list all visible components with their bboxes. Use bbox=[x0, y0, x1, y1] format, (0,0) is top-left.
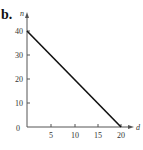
y-tick-label: 10 bbox=[15, 99, 23, 108]
x-ticks: 5 10 15 20 bbox=[49, 124, 125, 140]
y-tick-label: 30 bbox=[15, 51, 23, 60]
y-tick-label: 20 bbox=[15, 75, 23, 84]
y-ticks: 40 30 20 10 bbox=[15, 27, 30, 108]
y-axis-label: n bbox=[20, 9, 24, 18]
x-tick-label: 5 bbox=[49, 131, 53, 140]
y-axis-arrow-icon bbox=[25, 12, 29, 18]
x-tick-label: 20 bbox=[117, 131, 125, 140]
origin-label: 0 bbox=[16, 124, 20, 133]
x-axis-label: d bbox=[136, 123, 141, 132]
data-line bbox=[27, 31, 121, 127]
y-tick-label: 40 bbox=[15, 27, 23, 36]
panel-label: b. bbox=[1, 7, 12, 22]
x-tick-label: 15 bbox=[94, 131, 102, 140]
chart: b. n d 40 30 20 10 0 5 10 15 20 bbox=[0, 0, 143, 150]
x-axis-arrow-icon bbox=[128, 125, 134, 129]
x-tick-label: 10 bbox=[71, 131, 79, 140]
